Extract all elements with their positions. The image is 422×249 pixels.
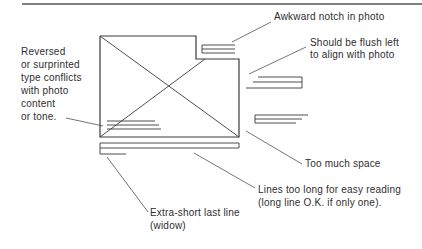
label-reversed-6: or tone. <box>21 111 57 124</box>
label-reversed-3: type conflicts <box>21 72 82 85</box>
long-text-lines <box>100 143 239 154</box>
label-widow-1: Extra-short last line <box>150 207 240 220</box>
label-reversed-4: with photo <box>21 85 69 98</box>
surprinted-text-lines <box>107 121 161 129</box>
label-space: Too much space <box>305 158 381 171</box>
notch-leader <box>232 22 271 42</box>
label-long-2: (long line O.K. if only one). <box>258 197 382 210</box>
long-leader <box>194 153 255 188</box>
reversed-leader <box>66 118 103 126</box>
label-reversed-2: or surprinted <box>21 59 80 72</box>
widow-leader <box>107 157 148 212</box>
label-reversed-5: content <box>21 98 55 111</box>
label-flush-2: to align with photo <box>310 49 394 62</box>
notch-text-lines <box>202 45 235 53</box>
space-leader <box>246 131 302 164</box>
flush-leader <box>249 47 306 74</box>
spaced-text-lines <box>255 115 308 123</box>
label-notch: Awkward notch in photo <box>274 11 384 24</box>
indented-text-lines <box>246 77 302 88</box>
label-reversed-1: Reversed <box>21 46 65 59</box>
label-long-1: Lines too long for easy reading <box>258 184 401 197</box>
label-flush-1: Should be flush left <box>310 37 399 50</box>
label-widow-2: (widow) <box>150 220 186 233</box>
